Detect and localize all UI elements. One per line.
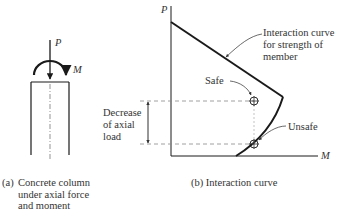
caption-a-line-2: under axial force xyxy=(18,189,89,201)
curve-annotation-line-3: member xyxy=(263,51,297,63)
caption-a-prefix: (a) xyxy=(2,177,14,188)
decrease-label-line-2: of axial xyxy=(103,119,135,131)
curve-leader xyxy=(226,34,262,57)
caption-b: (b) Interaction curve xyxy=(191,177,277,189)
safe-leader xyxy=(230,81,251,95)
decrease-label-line-1: Decrease xyxy=(103,107,141,119)
load-dashed-lines xyxy=(140,101,254,144)
caption-a-line-1: Concrete column xyxy=(18,177,90,189)
caption-a-line-3: and moment xyxy=(18,200,70,212)
moment-label: M xyxy=(73,64,82,76)
column-figure xyxy=(31,82,69,160)
unsafe-label: Unsafe xyxy=(288,121,318,133)
decrease-label-line-3: load xyxy=(103,131,121,143)
x-axis-label: M xyxy=(321,150,330,162)
curve-annotation-line-1: Interaction curve xyxy=(263,27,334,39)
caption-a: (a) Concrete column under axial force an… xyxy=(2,177,14,189)
curve-annotation-line-2: for strength of xyxy=(263,39,323,51)
safe-point xyxy=(249,96,259,106)
y-axis-label: P xyxy=(161,4,167,16)
safe-label: Safe xyxy=(205,75,224,87)
force-label: P xyxy=(55,37,61,49)
